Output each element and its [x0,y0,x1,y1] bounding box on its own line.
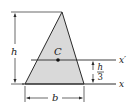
centroid-label: C [54,46,62,57]
offset-numerator-label: h [98,62,103,72]
centroid-point [56,58,60,62]
offset-denominator-label: 3 [98,72,103,82]
triangle-diagram: C h b h 3 x x′ [0,0,139,110]
base-label: b [52,92,58,103]
x-prime-axis-label: x′ [119,55,126,65]
height-label: h [11,46,17,57]
x-axis-label: x [119,79,124,89]
